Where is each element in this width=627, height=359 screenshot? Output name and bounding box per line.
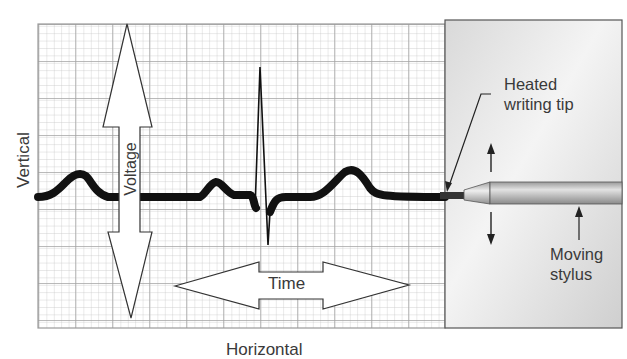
vertical-axis-label: Vertical [14, 120, 34, 200]
heated-tip-line-2: writing tip [504, 94, 574, 114]
heated-writing-tip-label: Heated writing tip [504, 74, 574, 114]
horizontal-axis-label: Horizontal [226, 340, 303, 359]
moving-stylus-line-2: stylus [550, 264, 603, 284]
moving-stylus-line-1: Moving [550, 244, 603, 264]
moving-stylus-label: Moving stylus [550, 244, 603, 284]
time-label: Time [268, 274, 305, 294]
voltage-label: Voltage [122, 134, 140, 204]
heated-tip-line-1: Heated [504, 74, 574, 94]
